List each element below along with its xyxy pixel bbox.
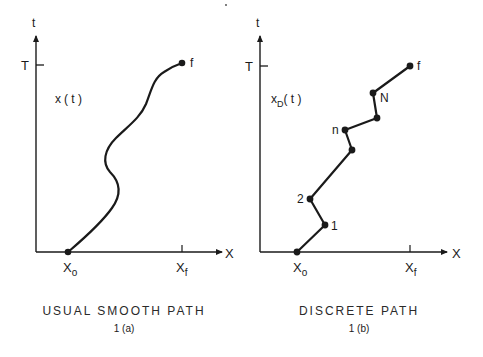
node-intermediate-b bbox=[374, 115, 381, 122]
figure-canvas: t T X x( t ) f Xo Xf USUAL SMOOTH PATH 1… bbox=[0, 0, 483, 357]
end-label-f: f bbox=[190, 56, 194, 70]
curve-label: x( t ) bbox=[55, 92, 82, 106]
discrete-path-polyline bbox=[297, 66, 410, 252]
x-axis-label: X bbox=[225, 246, 234, 261]
node-1 bbox=[322, 222, 329, 229]
node-2 bbox=[307, 196, 314, 203]
stray-mark bbox=[225, 4, 227, 6]
node-label-f: f bbox=[417, 59, 421, 73]
x-axis-label: X bbox=[452, 246, 461, 261]
T-label: T bbox=[245, 59, 253, 74]
smooth-path-curve bbox=[68, 63, 182, 252]
node-N bbox=[370, 90, 377, 97]
start-point-x0 bbox=[65, 249, 72, 256]
sub-caption-a: 1 (a) bbox=[114, 323, 135, 334]
x0-label: Xo bbox=[293, 260, 308, 278]
sub-caption-b: 1 (b) bbox=[349, 323, 370, 334]
figure-a-smooth-path: t T X x( t ) f Xo Xf USUAL SMOOTH PATH 1… bbox=[21, 16, 234, 334]
node-x0 bbox=[294, 249, 301, 256]
node-label-N: N bbox=[380, 91, 389, 105]
node-label-2: 2 bbox=[297, 192, 304, 206]
caption-a: USUAL SMOOTH PATH bbox=[42, 304, 205, 318]
node-f bbox=[407, 63, 414, 70]
t-axis-label: t bbox=[256, 16, 260, 30]
figure-b-discrete-path: t T X xD( t ) 1 2 n N f Xo bbox=[245, 16, 461, 334]
node-intermediate-a bbox=[349, 147, 356, 154]
node-label-n: n bbox=[332, 123, 339, 137]
xf-label: Xf bbox=[176, 260, 188, 278]
end-point-f bbox=[179, 60, 186, 67]
xf-label: Xf bbox=[405, 260, 417, 278]
node-label-1: 1 bbox=[331, 219, 338, 233]
caption-b: DISCRETE PATH bbox=[299, 304, 419, 318]
node-n bbox=[342, 127, 349, 134]
curve-label: xD( t ) bbox=[271, 92, 302, 109]
x0-label: Xo bbox=[63, 260, 78, 278]
t-axis-label: t bbox=[32, 16, 36, 30]
T-label: T bbox=[21, 58, 29, 73]
